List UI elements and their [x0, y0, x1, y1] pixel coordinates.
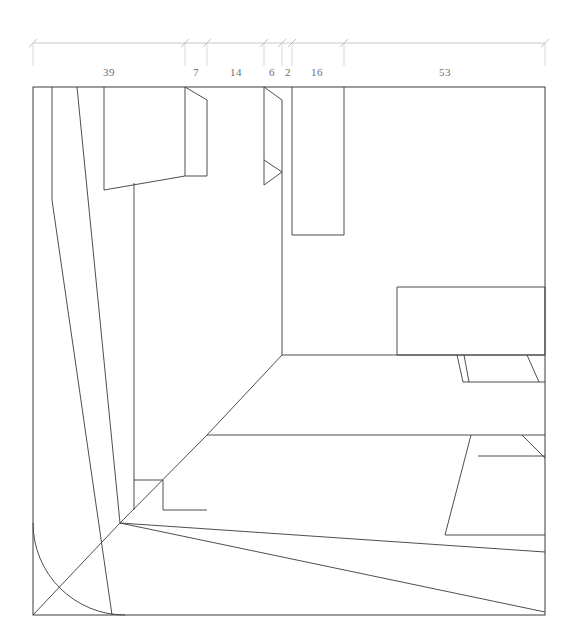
- dimension-label-2: 2: [285, 66, 291, 78]
- tab-right-below-ledge: [527, 355, 539, 382]
- dimension-label-39: 39: [103, 66, 115, 78]
- notch-right-top-slope: [264, 87, 282, 100]
- ledge-to-floor-diagonal: [207, 355, 282, 435]
- converge-line-lower-right: [120, 523, 545, 612]
- dimension-label-53: 53: [439, 66, 451, 78]
- technical-drawing-canvas: 39 7 14 6 2 16 53: [0, 0, 576, 642]
- main-geometry: [33, 87, 545, 615]
- figure-svg: 39 7 14 6 2 16 53: [0, 0, 576, 642]
- left-block-underside: [104, 176, 185, 190]
- notch-right-bottom-slope: [264, 172, 282, 185]
- dimension-label-16: 16: [311, 66, 323, 78]
- stair-step-corner: [134, 480, 207, 510]
- tab-left-below-ledge-inner: [464, 355, 469, 382]
- lower-right-corner-diagonal: [522, 435, 545, 458]
- notch-left-top-slope: [185, 87, 207, 100]
- tab-left-below-ledge: [457, 355, 545, 382]
- corner-arc: [33, 523, 125, 615]
- notch-right-mid-slope: [264, 160, 282, 172]
- dimension-labels: 39 7 14 6 2 16 53: [103, 66, 451, 78]
- drawing-frame: [33, 87, 545, 615]
- dimension-string: 39 7 14 6 2 16 53: [29, 39, 549, 78]
- dimension-label-6: 6: [269, 66, 275, 78]
- dimension-label-7: 7: [193, 66, 199, 78]
- dimension-label-14: 14: [230, 66, 242, 78]
- right-rectangle: [397, 287, 545, 355]
- lower-trapezoid-left-slope: [445, 435, 471, 535]
- inner-diagonal-line: [77, 87, 120, 523]
- converge-line-upper-right: [120, 523, 545, 552]
